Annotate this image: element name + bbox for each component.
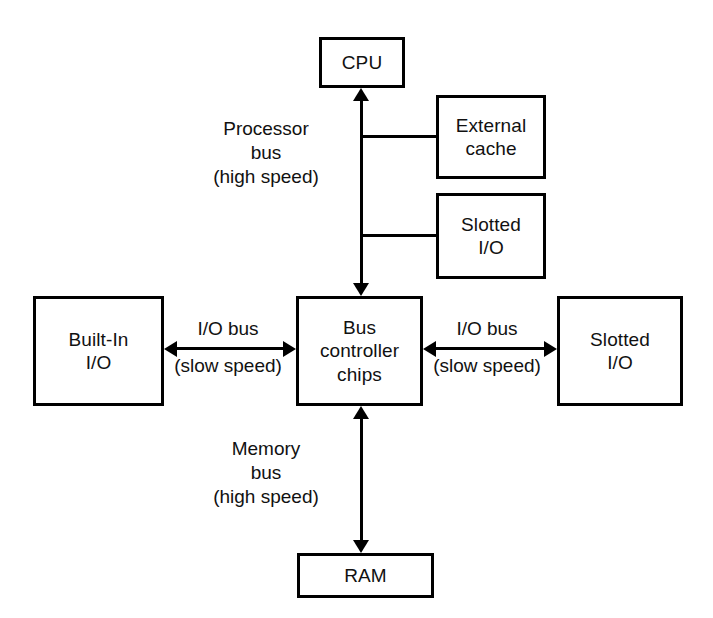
node-external-cache-label: External cache xyxy=(456,114,527,160)
connector-external-cache-branch xyxy=(361,135,437,138)
node-slotted-io-top-label: Slotted I/O xyxy=(461,213,521,259)
edge-label-right-io-bus-name: I/O bus xyxy=(427,318,547,341)
node-builtin-io: Built-In I/O xyxy=(33,296,164,406)
arrowhead-memory-bus-to-bus-controller xyxy=(353,406,369,419)
arrowhead-processor-bus-to-cpu xyxy=(353,88,369,101)
connector-left-io-bus-line xyxy=(172,347,288,350)
node-builtin-io-label: Built-In I/O xyxy=(69,328,129,374)
arrowhead-memory-bus-to-ram xyxy=(353,540,369,553)
connector-right-io-bus-line xyxy=(431,347,549,350)
node-ram-label: RAM xyxy=(344,564,387,587)
node-bus-controller-chips-label: Bus controller chips xyxy=(320,316,399,386)
edge-label-memory-bus: Memory bus (high speed) xyxy=(178,437,354,509)
node-slotted-io-top: Slotted I/O xyxy=(436,193,546,279)
node-cpu: CPU xyxy=(319,37,405,88)
connector-memory-bus-line xyxy=(360,413,363,546)
node-ram: RAM xyxy=(297,553,434,598)
edge-label-processor-bus: Processor bus (high speed) xyxy=(178,117,354,189)
connector-processor-bus-line xyxy=(360,95,363,289)
connector-slotted-io-top-branch xyxy=(361,234,437,237)
node-bus-controller-chips: Bus controller chips xyxy=(296,296,423,406)
edge-label-right-io-bus-speed: (slow speed) xyxy=(417,355,557,378)
node-external-cache: External cache xyxy=(436,95,546,179)
bus-architecture-diagram: CPU External cache Slotted I/O Bus contr… xyxy=(0,0,713,618)
edge-label-left-io-bus-speed: (slow speed) xyxy=(158,355,298,378)
edge-label-left-io-bus-name: I/O bus xyxy=(168,318,288,341)
node-slotted-io-right-label: Slotted I/O xyxy=(590,328,650,374)
node-slotted-io-right: Slotted I/O xyxy=(557,296,683,406)
arrowhead-processor-bus-to-bus-controller xyxy=(353,283,369,296)
node-cpu-label: CPU xyxy=(342,51,382,74)
